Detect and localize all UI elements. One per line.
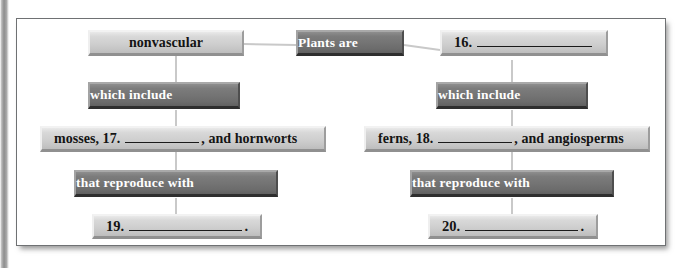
blank-18-write-line[interactable]	[438, 142, 512, 143]
node-list-vascular: ferns, 18. , and angiosperms	[364, 126, 650, 152]
blank-20-number: 20.	[442, 219, 460, 234]
node-nonvascular: nonvascular	[88, 30, 244, 56]
node-blank-19: 19. .	[92, 214, 262, 239]
node-list-nonvascular: mosses, 17. , and hornworts	[40, 126, 326, 152]
blank-16-row: 16.	[442, 35, 606, 50]
blank-19-tail: .	[244, 219, 248, 234]
node-that-reproduce-with-right-label: that reproduce with	[412, 176, 612, 190]
blank-17-tail: , and hornworts	[201, 132, 297, 146]
node-that-reproduce-with-left: that reproduce with	[74, 170, 278, 197]
node-that-reproduce-with-left-label: that reproduce with	[76, 176, 276, 190]
blank-17-row: mosses, 17. , and hornworts	[42, 132, 324, 146]
node-blank-20: 20. .	[428, 214, 598, 239]
node-which-include-left-label: which include	[90, 88, 238, 102]
blank-19-row: 19. .	[94, 219, 260, 234]
blank-16-number: 16.	[454, 35, 472, 50]
blank-17-write-line[interactable]	[125, 142, 199, 143]
blank-18-row: ferns, 18. , and angiosperms	[366, 132, 648, 146]
node-plants-are-label: Plants are	[298, 36, 402, 50]
node-blank-16: 16.	[440, 30, 608, 56]
blank-20-write-line[interactable]	[465, 230, 578, 231]
blank-20-row: 20. .	[430, 219, 596, 234]
blank-18-lead: ferns, 18.	[378, 132, 433, 146]
blank-20-tail: .	[580, 219, 584, 234]
worksheet-page: nonvascular Plants are 16. which include…	[0, 0, 686, 268]
node-plants-are: Plants are	[296, 30, 404, 56]
node-which-include-right-label: which include	[438, 88, 586, 102]
scan-edge-shadow	[0, 0, 9, 268]
blank-18-tail: , and angiosperms	[514, 132, 623, 146]
node-that-reproduce-with-right: that reproduce with	[410, 170, 614, 197]
node-which-include-left: which include	[88, 82, 240, 109]
blank-19-number: 19.	[106, 219, 124, 234]
node-nonvascular-label: nonvascular	[90, 36, 242, 50]
blank-19-write-line[interactable]	[129, 230, 242, 231]
node-which-include-right: which include	[436, 82, 588, 109]
blank-16-write-line[interactable]	[477, 46, 592, 47]
blank-17-lead: mosses, 17.	[54, 132, 120, 146]
